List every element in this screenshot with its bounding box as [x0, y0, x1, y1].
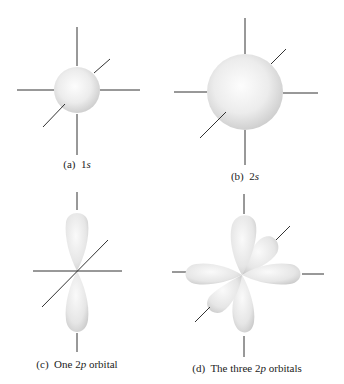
caption-c: (c) One 2p orbital [36, 358, 117, 370]
caption-d: (d) The three 2p orbitals [192, 362, 301, 374]
2s-sphere [207, 54, 283, 130]
2p-upper-lobe [66, 213, 89, 271]
caption-a: (a) 1s [63, 158, 91, 170]
orbital-diagram [0, 0, 344, 384]
caption-b: (b) 2s [231, 170, 259, 182]
panel-1s [17, 27, 140, 155]
panel-2s [174, 18, 318, 165]
panel-three-2p [172, 194, 324, 357]
panel-one-2p [33, 192, 122, 352]
1s-sphere [54, 67, 100, 113]
